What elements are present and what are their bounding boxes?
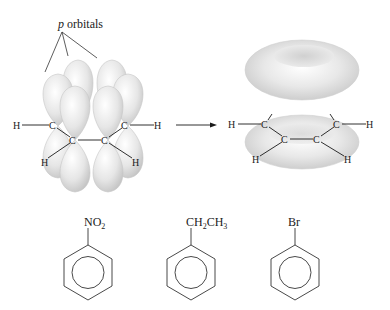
svg-text:C: C [121, 120, 128, 131]
nitrobenzene [64, 228, 112, 300]
reaction-arrow [176, 123, 217, 128]
bromo-group-label: Br [288, 215, 300, 229]
svg-text:p orbitals: p orbitals [57, 17, 103, 31]
svg-text:H: H [154, 120, 161, 131]
svg-text:C: C [101, 135, 108, 146]
svg-text:H: H [228, 119, 235, 130]
svg-text:C: C [69, 135, 76, 146]
svg-text:H: H [41, 157, 48, 168]
svg-text:H: H [366, 119, 373, 130]
svg-text:H: H [252, 154, 259, 165]
diagram-canvas: p orbitals H C C C C H [0, 0, 390, 310]
nitro-group-label: NO2 [84, 215, 105, 231]
svg-text:C: C [281, 134, 288, 145]
ethyl-group-label: CH2CH3 [186, 215, 227, 231]
p-orbital-lobes [43, 60, 143, 192]
svg-text:C: C [261, 119, 268, 130]
bromobenzene [271, 228, 319, 300]
ethylbenzene [167, 228, 215, 300]
svg-text:C: C [313, 134, 320, 145]
svg-text:H: H [132, 157, 139, 168]
pi-electron-cloud-top [245, 40, 359, 100]
svg-text:C: C [333, 119, 340, 130]
svg-text:C: C [49, 120, 56, 131]
svg-text:H: H [13, 120, 20, 131]
svg-text:H: H [344, 154, 351, 165]
